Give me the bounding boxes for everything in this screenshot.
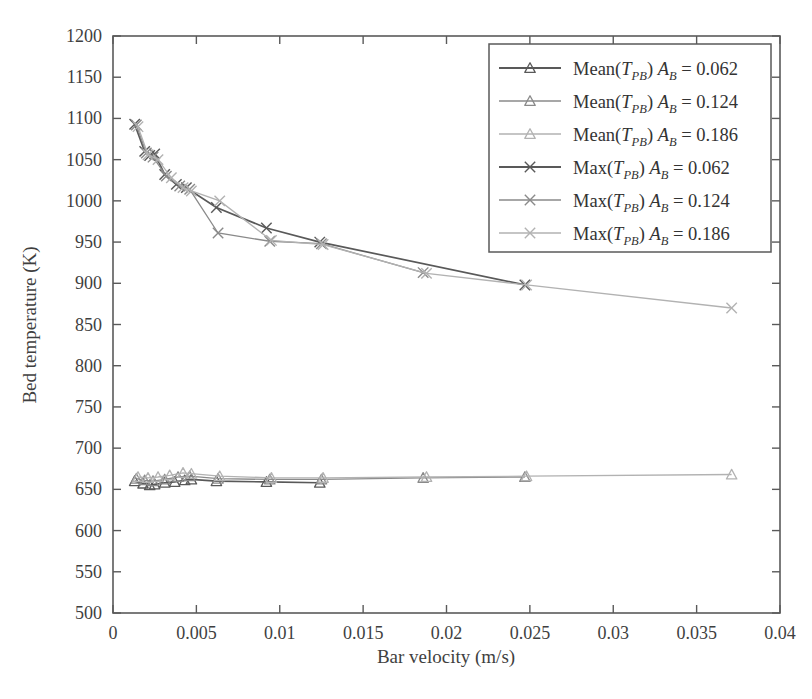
x-tick-label: 0.01	[264, 623, 296, 643]
y-tick-label: 950	[75, 232, 102, 252]
y-tick-label: 500	[75, 603, 102, 623]
x-tick-label: 0.03	[598, 623, 630, 643]
x-tick-label: 0.02	[431, 623, 463, 643]
x-tick-label: 0.015	[343, 623, 384, 643]
y-tick-label: 1050	[66, 150, 102, 170]
y-tick-label: 550	[75, 562, 102, 582]
x-tick-label: 0.005	[176, 623, 217, 643]
y-tick-label: 1200	[66, 26, 102, 46]
y-tick-label: 600	[75, 521, 102, 541]
y-tick-label: 850	[75, 315, 102, 335]
x-tick-label: 0.04	[764, 623, 796, 643]
y-tick-label: 750	[75, 397, 102, 417]
y-axis-label: Bed temperature (K)	[19, 246, 41, 403]
x-tick-label: 0	[109, 623, 118, 643]
legend[interactable]: Mean(TPB) AB = 0.062Mean(TPB) AB = 0.124…	[489, 44, 771, 252]
y-tick-label: 1150	[67, 67, 102, 87]
y-tick-label: 1000	[66, 191, 102, 211]
chart-root: { "chart_data": { "type": "line", "title…	[0, 0, 812, 699]
x-axis-label: Bar velocity (m/s)	[377, 646, 515, 668]
x-tick-label: 0.035	[676, 623, 717, 643]
y-tick-label: 800	[75, 356, 102, 376]
y-tick-label: 700	[75, 438, 102, 458]
chart-svg: 00.0050.010.0150.020.0250.030.0350.04500…	[0, 0, 812, 699]
y-tick-label: 1100	[67, 108, 102, 128]
y-tick-label: 900	[75, 273, 102, 293]
y-tick-label: 650	[75, 479, 102, 499]
x-tick-label: 0.025	[510, 623, 551, 643]
